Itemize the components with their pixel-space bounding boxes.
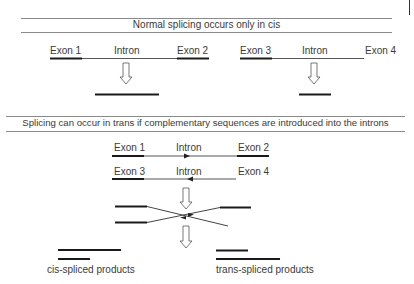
trans-down-arrow-icon-2 <box>180 226 192 248</box>
trans-bottom-strand <box>112 177 236 182</box>
diagram-graphics <box>0 0 414 284</box>
cis-spliced-products <box>58 250 121 259</box>
trans-spliced-products <box>216 251 280 260</box>
trans-crossover-pairing <box>115 207 251 227</box>
cis-gene-b-down-arrow-icon <box>308 63 320 84</box>
cis-gene-a-down-arrow-icon <box>120 63 132 84</box>
trans-down-arrow-icon-1 <box>180 188 192 209</box>
trans-top-strand <box>112 154 269 159</box>
